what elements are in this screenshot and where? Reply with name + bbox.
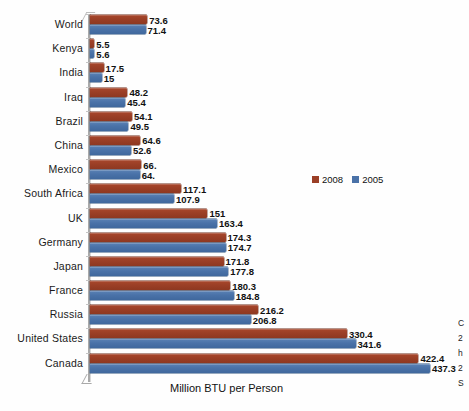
- bar-row: China64.652.6: [0, 135, 469, 159]
- bar-rows: World73.671.4Kenya5.55.6India17.515Iraq4…: [0, 14, 469, 377]
- bar-2008: 174.3: [90, 233, 226, 242]
- bar-2005: 5.6: [90, 49, 94, 58]
- bar-row: India17.515: [0, 62, 469, 86]
- bar-pair: 330.4341.6: [90, 329, 356, 349]
- bar-row: South Africa117.1107.9: [0, 183, 469, 207]
- plot-area: World73.671.4Kenya5.55.6India17.515Iraq4…: [0, 0, 469, 411]
- bar-2005: 107.9: [90, 194, 174, 203]
- bar-2008: 17.5: [90, 63, 104, 72]
- bar-2008: 73.6: [90, 15, 147, 24]
- bar-pair: 48.245.4: [90, 88, 127, 108]
- bar-2008: 66.: [90, 160, 141, 169]
- bar-row: France180.3184.8: [0, 280, 469, 304]
- category-label: China: [0, 139, 83, 151]
- bar-value-label: 341.6: [358, 338, 382, 349]
- category-label: United States: [0, 332, 83, 344]
- bar-value-label: 52.6: [133, 145, 152, 156]
- bar-2008: 48.2: [90, 88, 127, 97]
- bar-2005: 163.4: [90, 219, 217, 228]
- category-label: France: [0, 284, 83, 296]
- bar-pair: 73.671.4: [90, 15, 147, 35]
- category-label: Canada: [0, 357, 83, 369]
- bar-value-label: 45.4: [127, 97, 146, 108]
- legend-label-2005: 2005: [362, 174, 383, 185]
- bar-2008: 330.4: [90, 329, 347, 338]
- bar-pair: 64.652.6: [90, 136, 140, 156]
- bar-2008: 5.5: [90, 39, 94, 48]
- bar-pair: 54.149.5: [90, 112, 132, 132]
- legend-swatch-2008-icon: [312, 176, 319, 183]
- bar-2005: 64.: [90, 170, 140, 179]
- bar-chart: World73.671.4Kenya5.55.6India17.515Iraq4…: [0, 0, 469, 411]
- bar-row: United States330.4341.6: [0, 328, 469, 352]
- category-label: Russia: [0, 308, 83, 320]
- bar-2005: 15: [90, 73, 102, 82]
- bar-row: Iraq48.245.4: [0, 87, 469, 111]
- bar-value-label: 71.4: [148, 24, 167, 35]
- bar-value-label: 174.7: [228, 242, 252, 253]
- bar-2008: 117.1: [90, 184, 181, 193]
- bar-row: Germany174.3174.7: [0, 232, 469, 256]
- bar-2005: 71.4: [90, 25, 146, 34]
- bar-pair: 5.55.6: [90, 39, 94, 59]
- bar-pair: 151163.4: [90, 209, 217, 229]
- chart-legend: 2008 2005: [312, 174, 383, 185]
- legend-item-2005: 2005: [352, 174, 383, 185]
- bar-pair: 180.3184.8: [90, 281, 234, 301]
- bar-value-label: 49.5: [130, 121, 149, 132]
- bar-2008: 422.4: [90, 354, 418, 363]
- bar-pair: 171.8177.8: [90, 257, 228, 277]
- bar-2008: 54.1: [90, 112, 132, 121]
- bar-2005: 174.7: [90, 243, 226, 252]
- legend-item-2008: 2008: [312, 174, 343, 185]
- bar-2005: 206.8: [90, 315, 251, 324]
- category-label: Kenya: [0, 42, 83, 54]
- legend-swatch-2005-icon: [352, 176, 359, 183]
- bar-value-label: 64.: [142, 169, 155, 180]
- bar-row: Brazil54.149.5: [0, 111, 469, 135]
- category-label: Brazil: [0, 115, 83, 127]
- bar-row: Kenya5.55.6: [0, 38, 469, 62]
- bar-value-label: 107.9: [176, 193, 200, 204]
- bar-row: World73.671.4: [0, 14, 469, 38]
- bar-value-label: 184.8: [236, 290, 260, 301]
- clipped-side-caption: C2h2S: [458, 316, 469, 391]
- category-label: Iraq: [0, 91, 83, 103]
- bar-pair: 117.1107.9: [90, 184, 181, 204]
- bar-2005: 45.4: [90, 98, 125, 107]
- bar-2005: 49.5: [90, 122, 128, 131]
- bar-pair: 216.2206.8: [90, 305, 258, 325]
- bar-row: Russia216.2206.8: [0, 304, 469, 328]
- category-label: India: [0, 66, 83, 78]
- bar-2008: 216.2: [90, 305, 258, 314]
- side-caption-line: S: [458, 376, 469, 391]
- bar-pair: 174.3174.7: [90, 233, 226, 253]
- bar-value-label: 437.3: [432, 363, 456, 374]
- category-label: Germany: [0, 236, 83, 248]
- bar-2008: 171.8: [90, 257, 224, 266]
- bar-2005: 177.8: [90, 267, 228, 276]
- bar-2008: 180.3: [90, 281, 230, 290]
- side-caption-line: 2: [458, 361, 469, 376]
- bar-row: UK151163.4: [0, 208, 469, 232]
- side-caption-line: h: [458, 346, 469, 361]
- bar-2008: 151: [90, 209, 207, 218]
- side-caption-line: C: [458, 316, 469, 331]
- bar-2005: 437.3: [90, 364, 430, 373]
- legend-label-2008: 2008: [322, 174, 343, 185]
- bar-value-label: 206.8: [253, 314, 277, 325]
- bar-value-label: 5.6: [96, 48, 109, 59]
- bar-value-label: 15: [104, 72, 115, 83]
- category-label: World: [0, 18, 83, 30]
- category-label: Mexico: [0, 163, 83, 175]
- category-label: Japan: [0, 260, 83, 272]
- side-caption-line: 2: [458, 331, 469, 346]
- bar-value-label: 177.8: [230, 266, 254, 277]
- category-label: UK: [0, 212, 83, 224]
- bar-pair: 422.4437.3: [90, 354, 430, 374]
- x-axis-title: Million BTU per Person: [170, 382, 283, 394]
- bar-row: Canada422.4437.3: [0, 353, 469, 377]
- bar-row: Mexico66.64.: [0, 159, 469, 183]
- bar-2005: 341.6: [90, 339, 356, 348]
- category-label: South Africa: [0, 187, 83, 199]
